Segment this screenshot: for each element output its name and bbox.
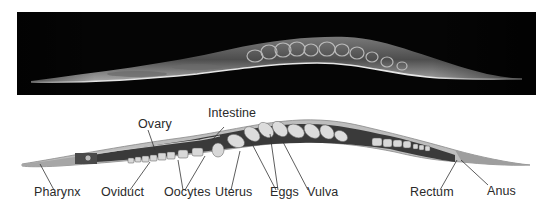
label-ovary: Ovary <box>138 118 172 131</box>
label-eggs: Eggs <box>270 186 299 199</box>
label-rectum: Rectum <box>410 186 454 199</box>
worm-photo-image <box>17 12 536 95</box>
label-intestine: Intestine <box>208 107 256 120</box>
worm-micrograph <box>17 12 536 95</box>
label-oocytes: Oocytes <box>164 186 211 199</box>
label-anus: Anus <box>487 185 516 198</box>
label-oviduct: Oviduct <box>101 186 144 199</box>
label-vulva: Vulva <box>307 186 338 199</box>
label-pharynx: Pharynx <box>34 186 81 199</box>
label-uterus: Uterus <box>215 186 252 199</box>
